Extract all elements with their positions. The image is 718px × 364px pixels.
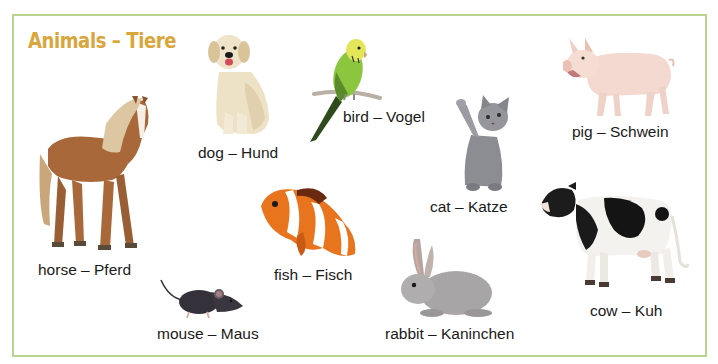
dog-label: dog – Hund [198,145,278,161]
cow-picture [538,180,690,295]
page-title: Animals – Tiere [28,29,176,53]
horse-label: horse – Pferd [38,262,131,278]
fish-label: fish – Fisch [274,267,352,283]
dog-picture [205,32,273,138]
mouse-picture [155,278,245,320]
rabbit-picture [396,235,498,319]
cow-label: cow – Kuh [590,303,662,319]
pig-label: pig – Schwein [572,124,669,140]
bird-picture [306,36,382,144]
fish-picture [257,184,359,260]
rabbit-label: rabbit – Kaninchen [385,326,514,342]
mouse-label: mouse – Maus [157,326,259,342]
pig-picture [563,36,675,120]
bird-label: bird – Vogel [343,109,425,125]
horse-picture [30,94,154,256]
cat-label: cat – Katze [430,199,508,215]
cat-picture [451,95,513,193]
